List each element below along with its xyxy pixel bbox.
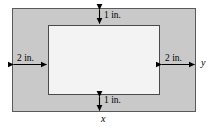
height-variable-label: y (201, 58, 205, 68)
width-variable-label: x (101, 114, 105, 124)
right-margin-label: 2 in. (165, 54, 182, 64)
bottom-margin-label: 1 in. (104, 96, 121, 106)
top-margin-label: 1 in. (104, 11, 121, 21)
geometry-figure: 1 in. 1 in. 2 in. 2 in. x y (0, 0, 214, 128)
inner-white-rectangle (48, 25, 160, 95)
left-margin-label: 2 in. (17, 54, 34, 64)
